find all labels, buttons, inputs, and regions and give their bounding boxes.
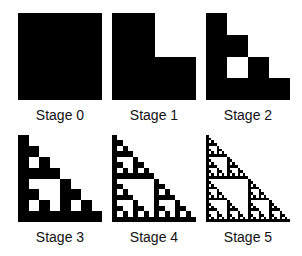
- stage-1: Stage 1: [112, 13, 196, 100]
- stage-3-label: Stage 3: [10, 229, 110, 245]
- stage-0: Stage 0: [18, 13, 102, 100]
- stage-4: Stage 4: [112, 135, 196, 222]
- stage-0-shape: [18, 13, 102, 100]
- stage-4-shape: [112, 135, 196, 222]
- stage-1-label: Stage 1: [104, 107, 204, 123]
- stage-3: Stage 3: [18, 135, 102, 222]
- stage-4-label: Stage 4: [104, 229, 204, 245]
- stage-1-shape: [112, 13, 196, 100]
- stage-3-shape: [18, 135, 102, 222]
- stage-0-label: Stage 0: [10, 107, 110, 123]
- stage-5: Stage 5: [206, 135, 290, 222]
- stage-2-shape: [206, 13, 290, 100]
- stage-2: Stage 2: [206, 13, 290, 100]
- stage-5-label: Stage 5: [198, 229, 298, 245]
- stage-5-shape: [206, 135, 290, 222]
- stage-2-label: Stage 2: [198, 107, 298, 123]
